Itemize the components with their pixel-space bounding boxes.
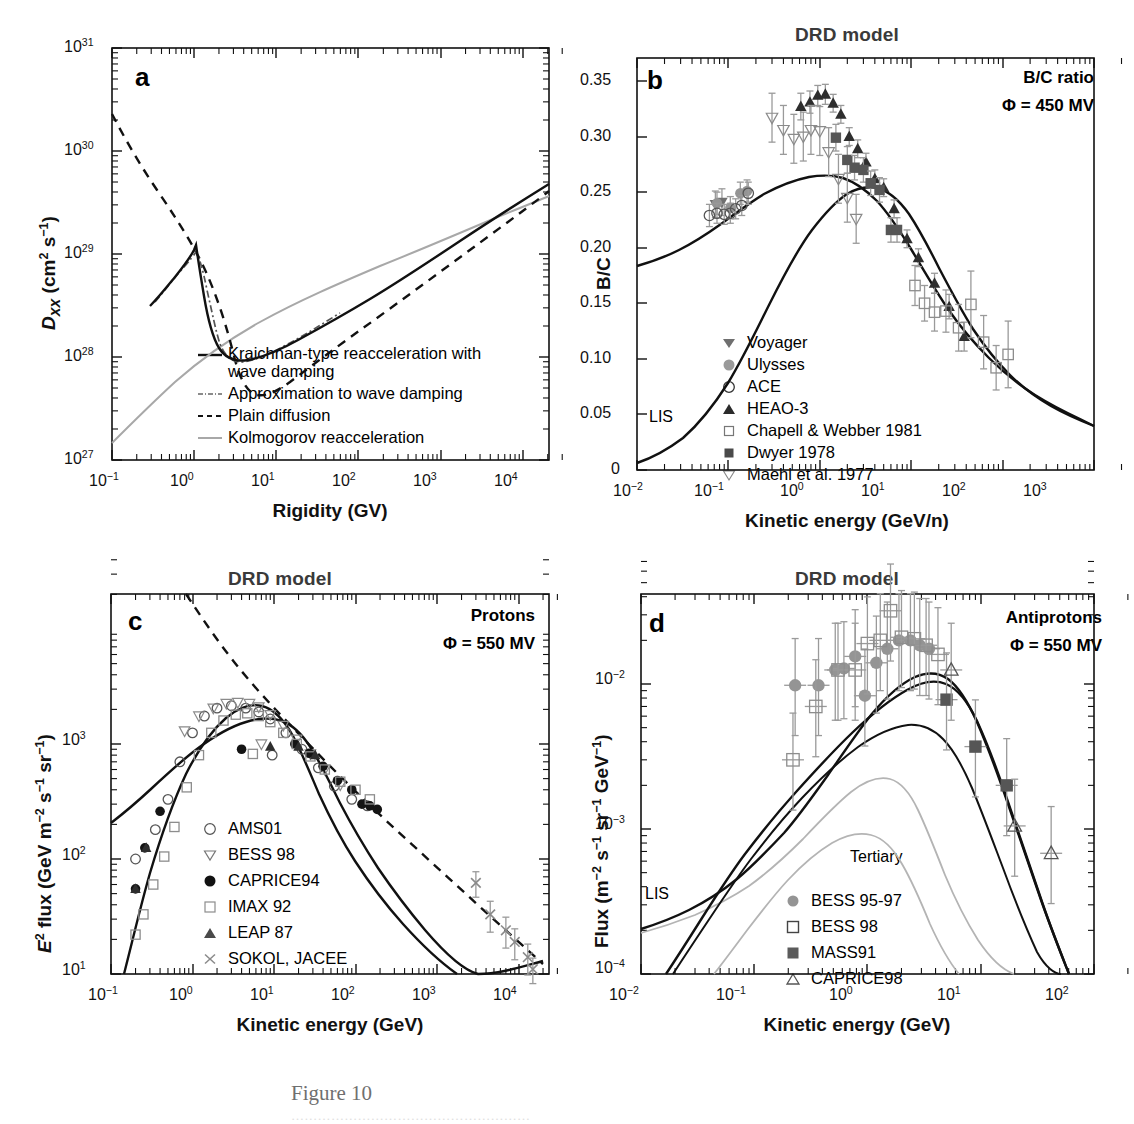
- curve-modulated-d: [666, 682, 1069, 974]
- curve-plain-diffusion-c: [186, 594, 543, 964]
- curve-lis-b: [637, 187, 1094, 463]
- curve-plain-diffusion: [112, 114, 549, 395]
- curve-kraichnan: [150, 184, 549, 361]
- panel-c-plot: [0, 558, 567, 1068]
- figure-caption: Figure 10: [291, 1081, 372, 1106]
- panel-b: DRD model b B/C ratio Φ = 450 MV LIS B/C…: [567, 0, 1134, 558]
- curve-modulated-c: [111, 718, 543, 974]
- curve-tertiary-modulated: [714, 834, 959, 974]
- panel-a-plot: [0, 0, 567, 558]
- panel-a: a Dxx (cm2 s−1) 1031 1030 1029 1028 1027…: [0, 0, 567, 558]
- panel-c: DRD model c Protons Φ = 550 MV E2 flux (…: [0, 558, 567, 1068]
- curve-tertiary-lis: [641, 778, 1014, 974]
- curve-modulated-d-2: [673, 725, 1061, 974]
- panel-d-plot: [567, 558, 1134, 1068]
- panel-b-plot: [567, 0, 1134, 558]
- figure-caption-faint: ………………………………………………: [291, 1108, 530, 1124]
- panel-d: DRD model d Antiprotons Φ = 550 MV LIS T…: [567, 558, 1134, 1068]
